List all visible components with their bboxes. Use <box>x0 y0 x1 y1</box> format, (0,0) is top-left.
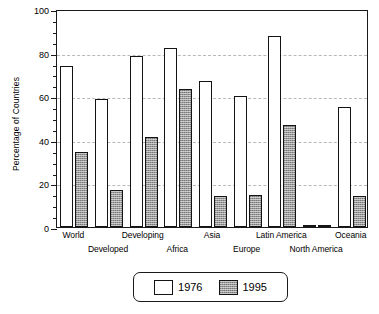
x-axis-label-group: WorldDevelopedDevelopingAfricaAsiaEurope… <box>56 230 368 264</box>
y-tick-minor-25 <box>53 175 57 176</box>
y-tick-minor-45 <box>53 131 57 132</box>
y-tick-minor-65 <box>53 87 57 88</box>
y-tick-label-80: 80 <box>39 50 49 60</box>
y-tick-major-20 <box>51 185 57 186</box>
bar-north-america-1976 <box>303 225 316 227</box>
y-tick-minor-55 <box>53 109 57 110</box>
x-axis-label-europe: Europe <box>233 244 260 254</box>
legend-swatch-1976-icon <box>154 280 173 295</box>
y-tick-minor-15 <box>53 196 57 197</box>
y-tick-major-60 <box>51 98 57 99</box>
y-tick-minor-5 <box>53 218 57 219</box>
y-tick-label-20: 20 <box>39 180 49 190</box>
y-tick-minor-70 <box>53 76 57 77</box>
x-axis-label-africa: Africa <box>167 244 188 254</box>
bar-asia-1976 <box>199 81 212 227</box>
y-tick-major-100 <box>51 11 57 12</box>
y-tick-minor-10 <box>53 207 57 208</box>
legend-item-1995: 1995 <box>219 280 267 295</box>
x-axis-label-north-america: North America <box>289 244 342 254</box>
x-axis-label-oceania: Oceania <box>335 230 366 240</box>
bar-oceania-1976 <box>338 107 351 227</box>
y-tick-minor-90 <box>53 33 57 34</box>
bar-world-1995 <box>75 152 88 227</box>
bar-developed-1976 <box>95 99 108 227</box>
y-tick-major-40 <box>51 142 57 143</box>
y-tick-minor-95 <box>53 22 57 23</box>
bar-asia-1995 <box>214 196 227 227</box>
bar-europe-1976 <box>234 96 247 227</box>
bar-latin-america-1976 <box>268 36 281 227</box>
bar-africa-1995 <box>179 89 192 227</box>
x-axis-label-latin-america: Latin America <box>256 230 307 240</box>
y-tick-label-0: 0 <box>44 224 49 234</box>
legend-label-1995: 1995 <box>243 281 267 293</box>
bar-developing-1995 <box>145 137 158 227</box>
y-tick-label-40: 40 <box>39 137 49 147</box>
x-axis-label-developed: Developed <box>88 244 128 254</box>
y-tick-major-80 <box>51 55 57 56</box>
bar-north-america-1995 <box>318 225 331 227</box>
y-tick-minor-85 <box>53 44 57 45</box>
gridline-80 <box>57 55 367 56</box>
legend-label-1976: 1976 <box>178 281 202 293</box>
bar-europe-1995 <box>249 195 262 227</box>
y-tick-minor-75 <box>53 66 57 67</box>
bar-oceania-1995 <box>353 196 366 227</box>
y-tick-label-100: 100 <box>34 6 49 16</box>
plot-area: 020406080100 <box>56 10 368 228</box>
bar-developing-1976 <box>130 56 143 227</box>
y-tick-minor-50 <box>53 120 57 121</box>
bar-world-1976 <box>60 66 73 227</box>
x-axis-label-world: World <box>62 230 84 240</box>
y-axis-title: Percentage of Countries <box>11 44 21 204</box>
y-tick-minor-30 <box>53 164 57 165</box>
chart-legend: 1976 1995 <box>133 272 288 302</box>
bar-africa-1976 <box>164 48 177 227</box>
bar-chart-figure: Percentage of Countries 020406080100 Wor… <box>0 0 379 314</box>
y-tick-label-60: 60 <box>39 93 49 103</box>
bar-developed-1995 <box>110 190 123 227</box>
legend-swatch-1995-icon <box>219 280 238 295</box>
x-axis-label-asia: Asia <box>204 230 220 240</box>
legend-item-1976: 1976 <box>154 280 202 295</box>
bar-latin-america-1995 <box>283 125 296 227</box>
y-tick-minor-35 <box>53 153 57 154</box>
x-axis-label-developing: Developing <box>122 230 164 240</box>
